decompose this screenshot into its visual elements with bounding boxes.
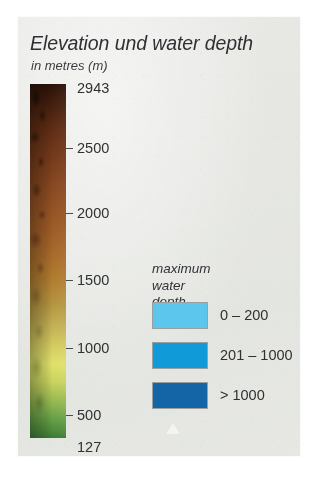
tick-mark [66, 280, 73, 281]
tick-mark [66, 348, 73, 349]
tick-label: 2943 [77, 79, 109, 97]
legend-label: 201 – 1000 [220, 347, 293, 363]
elevation-gradient [30, 84, 66, 438]
tick-label: 127 [77, 438, 101, 456]
tick-label: 2000 [77, 204, 109, 222]
elevation-colorbar [30, 84, 66, 438]
color-swatch [152, 342, 208, 369]
tick-label: 1500 [77, 271, 109, 289]
page-title: Elevation und water depth [30, 32, 253, 55]
page-subtitle: in metres (m) [31, 58, 108, 73]
tick-label: 2500 [77, 139, 109, 157]
color-swatch [152, 302, 208, 329]
legend-panel: Elevation und water depth in metres (m) … [18, 17, 300, 456]
tick-label: 500 [77, 406, 101, 424]
legend-label: > 1000 [220, 387, 265, 403]
tick-mark [66, 148, 73, 149]
scan-artifact [166, 423, 180, 434]
tick-label: 1000 [77, 339, 109, 357]
color-swatch [152, 382, 208, 409]
legend-label: 0 – 200 [220, 307, 268, 323]
tick-mark [66, 213, 73, 214]
tick-mark [66, 415, 73, 416]
